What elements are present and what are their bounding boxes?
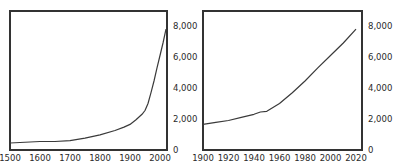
x-tick-label: 2000: [320, 153, 342, 163]
x-tick-label: 1920: [218, 153, 240, 163]
y-tick-label: 4,000: [368, 83, 392, 93]
chart-canvas: 02,0004,0006,0008,0001500160017001800190…: [0, 0, 393, 167]
plot-frame: [203, 11, 362, 150]
x-tick-label: 1800: [89, 153, 111, 163]
chart-panel-1500-2020: 02,0004,0006,0008,0001500160017001800190…: [0, 11, 197, 163]
x-tick-label: 1600: [29, 153, 51, 163]
y-tick-label: 8,000: [173, 21, 197, 31]
y-tick-label: 2,000: [173, 114, 197, 124]
population-line: [203, 29, 356, 124]
plot-frame: [10, 11, 167, 150]
population-line: [10, 29, 166, 143]
x-tick-label: 1900: [119, 153, 141, 163]
y-tick-label: 6,000: [173, 52, 197, 62]
chart-panel-1900-2020: 02,0004,0006,0008,0001900192019401960198…: [192, 11, 392, 163]
y-tick-label: 4,000: [173, 83, 197, 93]
y-tick-label: 2,000: [368, 114, 392, 124]
x-tick-label: 1900: [192, 153, 214, 163]
x-tick-label: 1980: [294, 153, 316, 163]
y-tick-label: 0: [368, 145, 373, 155]
x-tick-label: 1960: [269, 153, 291, 163]
x-tick-label: 1500: [0, 153, 21, 163]
y-tick-label: 8,000: [368, 21, 392, 31]
x-tick-label: 1940: [243, 153, 265, 163]
x-tick-label: 1700: [59, 153, 81, 163]
x-tick-label: 2020: [345, 153, 367, 163]
y-tick-label: 0: [173, 145, 178, 155]
x-tick-label: 2000: [149, 153, 171, 163]
y-tick-label: 6,000: [368, 52, 392, 62]
